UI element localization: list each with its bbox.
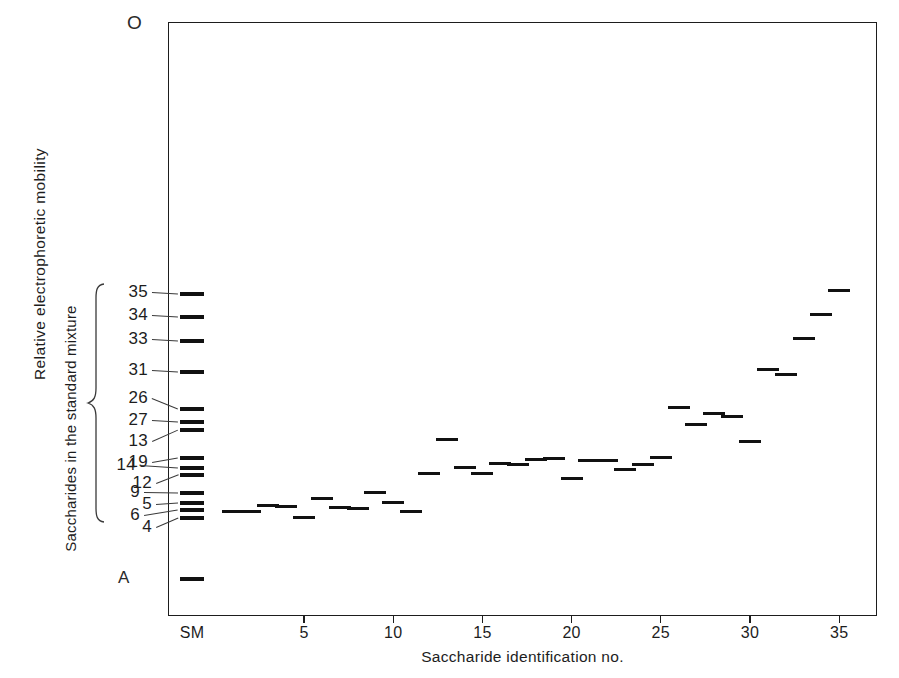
sm-band-35 [180, 292, 204, 296]
band-saccharide-12 [418, 472, 440, 475]
band-saccharide-19 [543, 457, 565, 460]
sm-band-31 [180, 370, 204, 374]
sm-band-14 [180, 466, 204, 470]
x-tick-10 [393, 616, 394, 623]
anode-marker-label: A [118, 568, 130, 588]
x-tick-label-SM: SM [162, 624, 222, 642]
sm-band-34 [180, 315, 204, 319]
band-saccharide-22 [596, 459, 618, 462]
sm-band-label-26: 26 [106, 389, 148, 406]
band-saccharide-27 [685, 423, 707, 426]
band-saccharide-11 [400, 510, 422, 513]
band-saccharide-9 [364, 491, 386, 494]
sm-band-label-35: 35 [106, 283, 148, 300]
x-tick-25 [660, 616, 661, 623]
band-saccharide-14 [454, 466, 476, 469]
band-saccharide-26 [668, 406, 690, 409]
x-tick-15 [482, 616, 483, 623]
band-saccharide-15 [471, 472, 493, 475]
x-tick-20 [571, 616, 572, 623]
band-saccharide-5 [293, 516, 315, 519]
sm-band-33 [180, 339, 204, 343]
band-saccharide-24 [632, 463, 654, 466]
sm-band-label-13: 13 [106, 432, 148, 449]
sm-band-27 [180, 420, 204, 424]
sm-leader-line-33 [152, 339, 178, 341]
band-saccharide-4 [275, 505, 297, 508]
sm-leader-line-35 [152, 292, 178, 294]
x-tick-label-30: 30 [720, 624, 780, 642]
sm-leader-line-34 [152, 315, 178, 317]
x-tick-label-20: 20 [542, 624, 602, 642]
sm-leader-line-27 [152, 420, 178, 422]
x-tick-label-5: 5 [274, 624, 334, 642]
sm-band-label-31: 31 [106, 361, 148, 378]
band-saccharide-2 [239, 510, 261, 513]
sm-band-26 [180, 407, 204, 411]
figure-canvas: O Relative electrophoretic mobility Sacc… [0, 0, 899, 678]
sm-band-4 [180, 516, 204, 520]
sm-band-9 [180, 491, 204, 495]
sm-band-5 [180, 501, 204, 505]
sm-band-13 [180, 428, 204, 432]
band-saccharide-25 [650, 456, 672, 459]
band-saccharide-23 [614, 468, 636, 471]
sm-band-label-27: 27 [106, 411, 148, 428]
sm-leader-line-31 [152, 370, 178, 372]
band-saccharide-17 [507, 463, 529, 466]
band-saccharide-20 [561, 477, 583, 480]
x-tick-30 [749, 616, 750, 623]
plot-frame [168, 22, 877, 616]
x-tick-35 [839, 616, 840, 623]
band-saccharide-29 [721, 415, 743, 418]
x-tick-label-15: 15 [452, 624, 512, 642]
sm-band-6 [180, 508, 204, 512]
origin-marker-label: O [127, 12, 142, 34]
band-saccharide-35 [828, 289, 850, 292]
sm-band-label-34: 34 [106, 306, 148, 323]
sm-band-label-14: 14 [94, 456, 136, 473]
band-saccharide-32 [775, 373, 797, 376]
x-tick-label-10: 10 [363, 624, 423, 642]
x-tick-label-25: 25 [631, 624, 691, 642]
y-axis-title-primary: Relative electrophoretic mobility [31, 54, 49, 474]
band-saccharide-13 [436, 438, 458, 441]
x-tick-5 [303, 616, 304, 623]
sm-band-label-4: 4 [110, 518, 152, 535]
band-saccharide-10 [382, 501, 404, 504]
sm-band-label-33: 33 [106, 330, 148, 347]
y-axis-title-secondary: Saccharides in the standard mixture [62, 229, 79, 629]
sm-band-19 [180, 456, 204, 460]
band-saccharide-31 [757, 368, 779, 371]
x-axis-title: Saccharide identification no. [168, 648, 877, 666]
x-tick-label-35: 35 [809, 624, 869, 642]
band-saccharide-34 [810, 313, 832, 316]
band-saccharide-30 [739, 440, 761, 443]
band-saccharide-33 [793, 337, 815, 340]
band-saccharide-8 [347, 507, 369, 510]
band-saccharide-6 [311, 497, 333, 500]
sm-band-A [180, 577, 204, 581]
sm-band-12 [180, 473, 204, 477]
